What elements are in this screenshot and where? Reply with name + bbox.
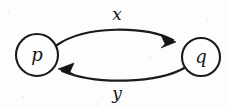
edge-y-group: y [58, 63, 186, 103]
node-q-group: q [182, 38, 220, 76]
node-p-group: p [16, 34, 58, 76]
edge-x-curve [57, 30, 173, 45]
transition-diagram-figure: x y p q [0, 0, 229, 108]
diagram-canvas: x y p q [0, 0, 229, 108]
edge-x-group: x [57, 4, 176, 49]
edge-y-label: y [111, 83, 122, 103]
edge-y-curve [62, 67, 186, 81]
node-q-label: q [195, 46, 207, 67]
node-p-label: p [31, 44, 43, 65]
edge-x-label: x [112, 4, 122, 24]
